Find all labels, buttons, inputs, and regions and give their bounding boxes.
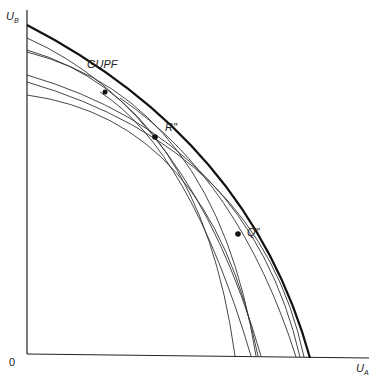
curve-1 bbox=[27, 38, 261, 356]
curve-6 bbox=[27, 95, 258, 356]
gupf-label: GUPF bbox=[87, 58, 118, 70]
gupf-frontier bbox=[27, 25, 310, 358]
point-r-label: R" bbox=[165, 121, 177, 133]
curve-8 bbox=[120, 98, 296, 357]
point-q-label: Q" bbox=[247, 226, 259, 238]
x-axis-label: UA bbox=[356, 362, 369, 376]
x-axis bbox=[27, 354, 369, 358]
utility-possibility-curves bbox=[27, 38, 304, 357]
utility-possibility-diagram bbox=[0, 0, 377, 379]
point-q bbox=[235, 231, 241, 237]
curve-3 bbox=[27, 52, 256, 356]
tangency-point bbox=[103, 90, 108, 95]
origin-label: 0 bbox=[9, 356, 15, 368]
point-r bbox=[152, 134, 158, 140]
curve-2 bbox=[27, 50, 235, 356]
y-axis-label: UB bbox=[6, 10, 19, 24]
